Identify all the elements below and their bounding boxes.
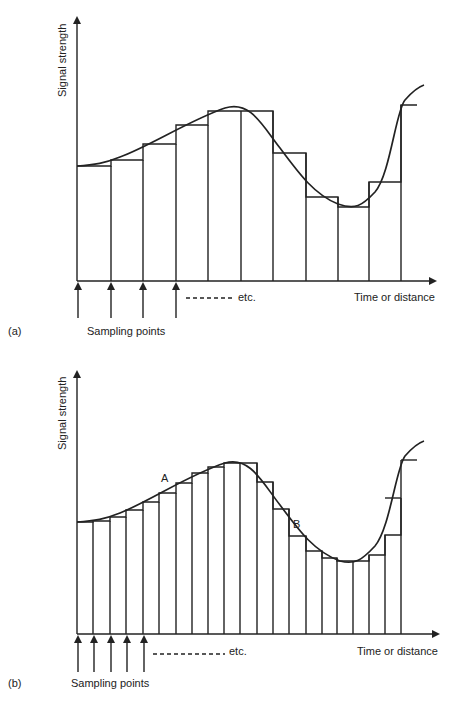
sample-bars <box>77 460 417 634</box>
signal-curve <box>77 85 424 207</box>
y-axis-label: Signal strength <box>56 377 68 450</box>
panel-label-a: (a) <box>8 325 21 337</box>
panel-a-labels: Signal strength Time or distance etc. Sa… <box>8 24 435 337</box>
etc-label: etc. <box>229 645 247 657</box>
sampling-arrows <box>78 639 144 672</box>
annotation-a: A <box>161 472 169 484</box>
sampling-diagram: Signal strength Time or distance etc. Sa… <box>0 0 456 706</box>
sampling-points-label: Sampling points <box>87 325 166 337</box>
sample-bars <box>77 105 417 281</box>
panel-label-b: (b) <box>8 677 21 689</box>
x-axis-label: Time or distance <box>354 291 435 303</box>
panel-b <box>77 374 436 672</box>
y-axis-label: Signal strength <box>56 24 68 97</box>
sampling-arrows <box>78 286 176 318</box>
sampling-points-label: Sampling points <box>71 677 150 689</box>
panel-b-labels: Signal strength Time or distance etc. Sa… <box>8 377 438 689</box>
annotation-b: B <box>293 518 300 530</box>
panel-a <box>77 20 433 318</box>
x-axis-label: Time or distance <box>357 645 438 657</box>
etc-label: etc. <box>238 291 256 303</box>
signal-curve <box>77 441 424 562</box>
